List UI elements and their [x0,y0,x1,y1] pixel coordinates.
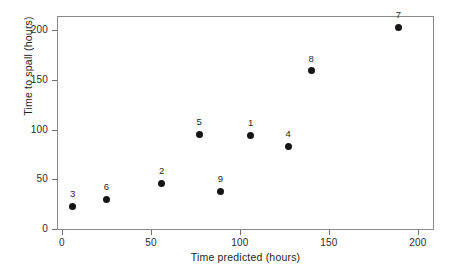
y-tick-mark [52,30,57,31]
x-tick-mark [329,230,330,235]
scatter-plot-figure: 050100150200 050100150200 362591487 Time… [0,0,450,271]
data-point-label: 2 [152,165,172,176]
data-point-marker [196,131,203,138]
data-point-marker [69,203,76,210]
x-tick-mark [151,230,152,235]
x-tick-label: 0 [42,237,82,248]
x-tick-mark [240,230,241,235]
y-tick-mark [52,179,57,180]
data-point-label: 8 [301,53,321,64]
x-tick-label: 200 [398,237,438,248]
y-tick-label: 0 [10,223,48,234]
data-point-label: 5 [189,116,209,127]
data-point-marker [217,188,224,195]
data-point-marker [103,196,110,203]
y-tick-mark [52,229,57,230]
x-axis-title: Time predicted (hours) [57,251,434,263]
data-point-label: 4 [278,128,298,139]
x-tick-mark [62,230,63,235]
x-tick-label: 50 [131,237,171,248]
data-point-label: 9 [210,173,230,184]
data-point-marker [285,143,292,150]
x-tick-mark [418,230,419,235]
y-tick-label: 50 [10,173,48,184]
data-point-label: 7 [388,9,408,20]
data-point-marker [308,67,315,74]
x-tick-label: 150 [309,237,349,248]
data-point-label: 3 [63,188,83,199]
x-tick-label: 100 [220,237,260,248]
data-point-marker [395,24,402,31]
y-tick-mark [52,80,57,81]
data-point-label: 1 [241,117,261,128]
data-point-label: 6 [97,181,117,192]
data-point-marker [158,180,165,187]
y-axis-title: Time to spall (hours) [22,0,34,146]
y-tick-mark [52,130,57,131]
